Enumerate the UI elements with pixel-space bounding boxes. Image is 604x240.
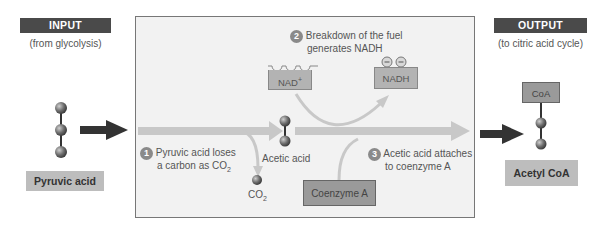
nadh-box: NADH — [374, 67, 418, 89]
coenzyme-a-arrow-icon — [339, 139, 358, 180]
co2-branch-arrow-icon — [240, 131, 258, 168]
step-3-badge: 3 — [368, 148, 381, 161]
nad-plus-sup: + — [298, 76, 302, 83]
step-2-description: 2 Breakdown of the fuel generates NADH — [290, 30, 403, 55]
acetic-acid-label: Acetic acid — [262, 153, 310, 165]
co2-label: CO2 — [248, 189, 267, 205]
acetyl-coa-molecule-icon — [536, 103, 547, 150]
pyruvic-acid-molecule-icon — [55, 102, 67, 158]
nad-plus-box: NAD+ — [268, 70, 312, 90]
step-1-description: 1 Pyruvic acid loses a carbon as CO2 — [140, 147, 236, 176]
output-arrow-icon — [480, 124, 524, 144]
step-1-badge: 1 — [140, 147, 153, 160]
nadh-electrons-icon — [382, 57, 406, 67]
flow-arrow-1-icon — [138, 121, 283, 141]
step-2-badge: 2 — [290, 30, 303, 43]
co2-molecule-icon — [252, 175, 262, 185]
nad-reduction-arrow-icon — [296, 94, 380, 125]
coa-tag: CoA — [522, 82, 560, 103]
flow-arrow-2-icon — [295, 121, 470, 141]
step-3-description: 3 Acetic acid attaches to coenzyme A — [368, 148, 472, 173]
coenzyme-a-box: Coenzyme A — [303, 180, 376, 206]
acetyl-coa-label: Acetyl CoA — [505, 160, 578, 186]
input-arrow-icon — [80, 120, 128, 140]
pyruvic-acid-label: Pyruvic acid — [26, 171, 104, 191]
nad-plus-base: NAD — [278, 77, 298, 88]
